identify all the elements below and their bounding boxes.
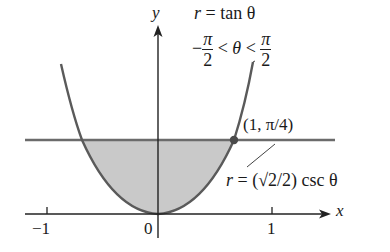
line-eq-rhs: (√2/2) csc θ xyxy=(252,170,337,190)
constraint-less-than-2: < xyxy=(246,38,256,58)
constraint-less-than-1: < xyxy=(218,38,228,58)
line-eq-equals: = xyxy=(238,170,248,190)
curve-equation: r = tan θ xyxy=(194,3,255,24)
x-axis-label: x xyxy=(336,201,344,221)
intersection-point-marker xyxy=(230,136,238,144)
curve-eq-rhs: tan θ xyxy=(220,3,255,23)
leader-line-label xyxy=(247,144,275,167)
curve-eq-lhs: r xyxy=(194,3,201,23)
intersection-point-label: (1, π/4) xyxy=(243,115,293,135)
domain-constraint: −π2 < θ < π2 xyxy=(192,30,271,69)
tick-label-minus-1: −1 xyxy=(32,219,50,239)
constraint-minus: − xyxy=(192,38,202,58)
y-axis-label: y xyxy=(152,3,160,23)
fraction-pi-over-2-right: π2 xyxy=(260,30,271,69)
tick-label-0: 0 xyxy=(144,219,153,239)
line-equation: r = (√2/2) csc θ xyxy=(226,170,338,191)
curve-eq-equals: = xyxy=(206,3,216,23)
constraint-theta: θ xyxy=(232,38,241,58)
line-eq-lhs: r xyxy=(226,170,233,190)
tick-label-1: 1 xyxy=(267,219,276,239)
fraction-pi-over-2-left: π2 xyxy=(202,30,213,69)
